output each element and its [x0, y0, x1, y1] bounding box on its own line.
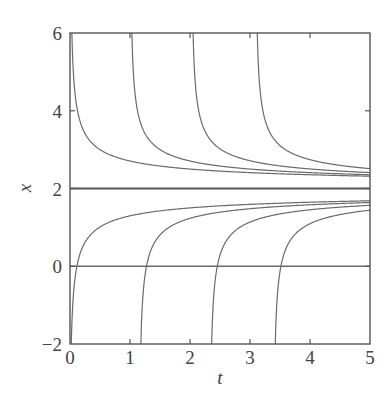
- y-axis-label: x: [14, 183, 35, 193]
- x-tick-label: 4: [305, 347, 315, 368]
- plot-area: [70, 33, 370, 344]
- solution-curve-upper-1: [72, 33, 370, 176]
- x-tick-label: 5: [365, 347, 375, 368]
- y-tick-label: −2: [42, 334, 62, 355]
- x-tick-label: 3: [245, 347, 255, 368]
- solution-curve-lower-3: [212, 205, 370, 344]
- x-tick-label: 1: [125, 347, 135, 368]
- y-tick-labels: −20246: [42, 23, 63, 355]
- solution-curve-upper-4: [257, 33, 370, 169]
- solution-curve-upper-2: [132, 33, 370, 175]
- y-tick-label: 2: [53, 179, 63, 200]
- solution-curve-lower-1: [71, 201, 370, 344]
- x-tick-labels: 012345: [65, 347, 375, 368]
- x-tick-label: 2: [185, 347, 195, 368]
- solution-curve-lower-4: [275, 210, 370, 344]
- chart: 012345 −20246 t x: [0, 0, 390, 399]
- solution-curve-upper-3: [193, 33, 370, 173]
- x-axis-label: t: [217, 367, 223, 388]
- y-tick-label: 0: [53, 256, 63, 277]
- y-tick-label: 4: [53, 101, 63, 122]
- solution-curve-lower-2: [141, 203, 370, 344]
- y-tick-label: 6: [53, 23, 63, 44]
- x-tick-label: 0: [65, 347, 75, 368]
